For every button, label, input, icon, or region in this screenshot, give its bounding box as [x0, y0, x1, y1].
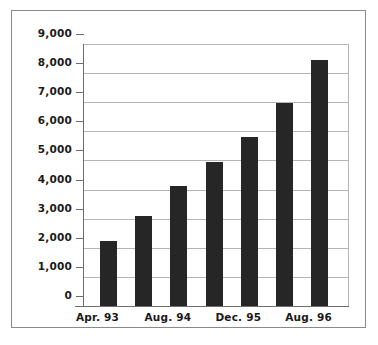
- y-tick-mark: [76, 150, 84, 151]
- chart-outer-frame: 01,0002,0003,0004,0005,0006,0007,0008,00…: [11, 10, 366, 328]
- y-tick-label: 2,000: [20, 231, 72, 243]
- bar: [311, 60, 328, 306]
- y-tick-label: 4,000: [20, 173, 72, 185]
- y-tick-label: 9,000: [20, 27, 72, 39]
- bar-chart-figure: 01,0002,0003,0004,0005,0006,0007,0008,00…: [0, 0, 378, 345]
- y-tick-mark: [76, 267, 84, 268]
- y-tick-label: 0: [20, 289, 72, 301]
- bar: [170, 186, 187, 306]
- y-tick-mark: [76, 63, 84, 64]
- y-tick-mark: [76, 238, 84, 239]
- bar: [241, 137, 258, 306]
- y-tick-mark: [76, 121, 84, 122]
- y-tick-label: 1,000: [20, 260, 72, 272]
- y-tick-label: 5,000: [20, 143, 72, 155]
- y-tick-mark: [76, 34, 84, 35]
- y-tick-label: 6,000: [20, 114, 72, 126]
- y-tick-mark: [76, 209, 84, 210]
- bar: [100, 241, 117, 307]
- x-axis-line: [75, 306, 349, 307]
- y-tick-mark: [76, 180, 84, 181]
- y-tick-mark: [76, 296, 84, 297]
- x-tick-label: Aug. 96: [285, 311, 332, 323]
- y-tick-mark: [76, 92, 84, 93]
- bar: [135, 216, 152, 306]
- x-tick-label: Dec. 95: [215, 311, 261, 323]
- y-axis-tick-labels: 01,0002,0003,0004,0005,0006,0007,0008,00…: [12, 11, 72, 345]
- y-tick-label: 7,000: [20, 85, 72, 97]
- y-tick-label: 3,000: [20, 202, 72, 214]
- bar: [206, 162, 223, 306]
- bars-layer: [84, 44, 349, 306]
- x-tick-label: Aug. 94: [145, 311, 192, 323]
- x-tick-label: Apr. 93: [76, 311, 119, 323]
- bar: [276, 103, 293, 306]
- y-tick-label: 8,000: [20, 56, 72, 68]
